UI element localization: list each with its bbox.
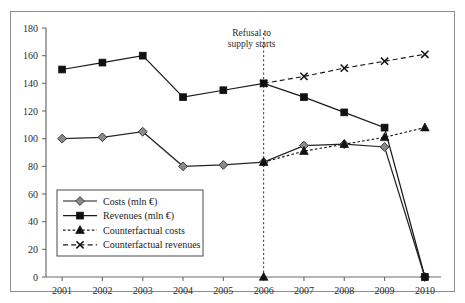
y-tick-label: 120 (23, 106, 38, 117)
datapoint-costs-2005 (219, 161, 228, 170)
x-tick-label: 2005 (213, 285, 233, 296)
datapoint-revenues-2009 (381, 124, 388, 131)
line-chart: 020406080100120140160180 200120022003200… (0, 0, 465, 303)
x-tick-label: 2009 (375, 285, 395, 296)
axis-marker-triangle (259, 272, 268, 280)
datapoint-counterfactual_costs-2010 (421, 123, 430, 131)
y-tick-label: 20 (28, 244, 38, 255)
legend-label-counterfactual_revenues: Counterfactual revenues (103, 239, 201, 250)
legend-label-revenues: Revenues (mln €) (103, 210, 174, 222)
y-tick-label: 0 (33, 272, 38, 283)
series-counterfactual_revenues (260, 51, 428, 87)
x-tick-label: 2002 (92, 285, 112, 296)
y-axis: 020406080100120140160180 (23, 23, 46, 283)
datapoint-counterfactual_revenues-2010 (421, 51, 428, 58)
y-tick-label: 60 (28, 189, 38, 200)
datapoint-revenues-2004 (180, 94, 187, 101)
datapoint-revenues-2008 (341, 109, 348, 116)
y-tick-label: 160 (23, 50, 38, 61)
legend-marker-revenues (77, 212, 84, 219)
x-tick-label: 2006 (254, 285, 274, 296)
x-tick-label: 2001 (52, 285, 72, 296)
datapoint-revenues-2002 (99, 59, 106, 66)
datapoint-revenues-2001 (59, 66, 66, 73)
y-tick-label: 80 (28, 161, 38, 172)
x-axis: 2001200220032004200520062007200820092010 (46, 277, 441, 296)
datapoint-revenues-2010 (421, 274, 428, 281)
series-counterfactual_costs (259, 123, 429, 165)
y-tick-label: 140 (23, 78, 38, 89)
y-tick-label: 100 (23, 133, 38, 144)
x-tick-label: 2010 (415, 285, 435, 296)
datapoint-costs-2009 (380, 143, 389, 152)
x-tick-label: 2007 (294, 285, 314, 296)
datapoint-revenues-2003 (139, 52, 146, 59)
legend-label-counterfactual_costs: Counterfactual costs (103, 225, 185, 236)
x-tick-label: 2008 (334, 285, 354, 296)
legend-label-costs: Costs (mln €) (103, 196, 157, 208)
datapoint-revenues-2005 (220, 87, 227, 94)
datapoint-costs-2001 (58, 134, 67, 143)
chart-legend: Costs (mln €)Revenues (mln €)Counterfact… (57, 190, 203, 256)
annotation-line-1: Refusal to (232, 28, 271, 38)
figure-container: 020406080100120140160180 200120022003200… (0, 0, 465, 303)
datapoint-revenues-2007 (301, 94, 308, 101)
x-tick-label: 2004 (173, 285, 193, 296)
datapoint-costs-2002 (98, 133, 107, 142)
x-tick-label: 2003 (133, 285, 153, 296)
annotation-line-2: supply starts (228, 39, 276, 49)
annotation-refusal-to-supply: Refusal tosupply starts (228, 28, 276, 280)
y-tick-label: 40 (28, 216, 38, 227)
y-tick-label: 180 (23, 23, 38, 34)
